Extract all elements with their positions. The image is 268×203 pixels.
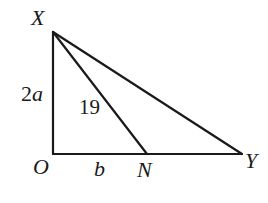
- label-length-xo: 2a: [21, 81, 43, 106]
- label-length-xo-coef: 2: [21, 81, 32, 106]
- label-vertex-o: O: [33, 154, 49, 179]
- label-vertex-y: Y: [245, 148, 260, 173]
- label-length-xo-var: a: [32, 81, 43, 106]
- label-length-xn: 19: [79, 95, 100, 119]
- label-vertex-x: X: [30, 5, 46, 30]
- segment-xn: [53, 32, 147, 154]
- triangle-diagram: X O N Y 2a 19 b: [0, 0, 268, 203]
- label-vertex-n: N: [136, 157, 153, 182]
- label-length-on: b: [94, 156, 105, 181]
- segment-xy: [53, 32, 242, 154]
